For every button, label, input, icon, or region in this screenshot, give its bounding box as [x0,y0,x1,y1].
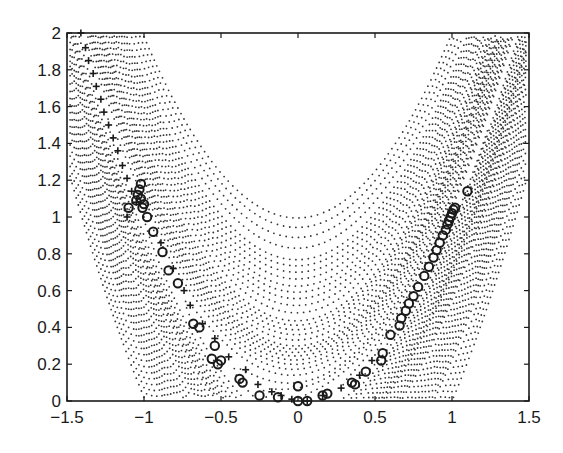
contour-dot [124,50,126,52]
contour-dot [368,397,370,399]
contour-dot [494,224,496,226]
contour-dot [468,95,470,97]
contour-dot [153,322,155,324]
contour-dot [102,128,104,130]
contour-dot [502,118,504,120]
contour-dot [334,372,336,374]
contour-dot [458,267,460,269]
contour-dot [169,332,171,334]
contour-dot [267,230,269,232]
contour-dot [476,94,478,96]
contour-dot [451,229,453,231]
contour-dot [482,45,484,47]
contour-dot [307,264,309,266]
contour-dot [468,357,470,359]
contour-dot [427,85,429,87]
contour-dot [158,302,160,304]
contour-dot [274,301,276,303]
contour-dot [383,322,385,324]
contour-dot [419,169,421,171]
contour-dot [73,105,75,107]
contour-dot [212,321,214,323]
contour-dot [235,249,237,251]
contour-dot [292,329,294,331]
contour-dot [173,392,175,394]
contour-dot [146,360,148,362]
contour-dot [163,128,165,130]
contour-dot [153,372,155,374]
contour-dot [119,276,121,278]
contour-dot [431,152,433,154]
contour-dot [108,204,110,206]
contour-dot [116,326,118,328]
contour-dot [94,174,96,176]
contour-dot [435,301,437,303]
contour-dot [468,37,470,39]
contour-dot [385,324,387,326]
contour-dot [481,96,483,98]
contour-dot [376,188,378,190]
contour-dot [157,165,159,167]
contour-dot [128,327,130,329]
contour-dot [461,256,463,258]
contour-dot [71,98,73,100]
contour-dot [490,297,492,299]
contour-dot [109,83,111,85]
contour-dot [185,266,187,268]
contour-dot [161,291,163,293]
contour-dot [197,389,199,391]
contour-dot [496,190,498,192]
contour-dot [199,258,201,260]
contour-dot [205,215,207,217]
contour-dot [494,254,496,256]
contour-dot [154,71,156,73]
contour-dot [75,36,77,38]
contour-dot [353,325,355,327]
contour-dot [200,316,202,318]
contour-dot [269,388,271,390]
contour-dot [480,51,482,53]
contour-dot [370,223,372,225]
contour-dot [403,196,405,198]
contour-dot [483,50,485,52]
contour-dot [119,262,121,264]
contour-dot [262,208,264,210]
contour-dot [440,164,442,166]
contour-dot [489,224,491,226]
contour-dot [104,270,106,272]
contour-dot [138,301,140,303]
contour-dot [384,237,386,239]
contour-dot [186,260,188,262]
contour-dot [431,216,433,218]
contour-dot [462,331,464,333]
contour-dot [182,260,184,262]
contour-dot [190,200,192,202]
contour-dot [251,325,253,327]
contour-dot [283,347,285,349]
contour-dot [104,55,106,57]
contour-dot [340,232,342,234]
contour-dot [100,122,102,124]
contour-dot [112,78,114,80]
contour-dot [281,374,283,376]
contour-dot [90,189,92,191]
contour-dot [125,341,127,343]
contour-dot [75,97,77,99]
contour-dot [180,113,182,115]
contour-dot [438,295,440,297]
contour-dot [377,303,379,305]
contour-dot [104,172,106,174]
contour-dot [413,256,415,258]
contour-dot [395,215,397,217]
contour-dot [441,349,443,351]
contour-dot [96,174,98,176]
contour-dot [491,192,493,194]
contour-dot [430,200,432,202]
contour-dot [274,342,276,344]
contour-dot [367,198,369,200]
contour-dot [281,382,283,384]
contour-dot [452,177,454,179]
contour-dot [505,147,507,149]
contour-dot [213,212,215,214]
contour-dot [474,88,476,90]
